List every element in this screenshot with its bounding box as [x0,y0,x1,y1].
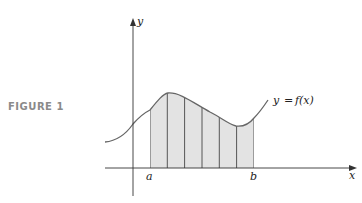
y-axis-arrow-icon [130,18,136,26]
bound-a-label: a [146,170,153,183]
curve-label-fx: f(x) [294,94,314,107]
x-axis-label: x [349,169,356,182]
y-axis [130,18,136,196]
curve-label: y = f(x) [272,94,314,107]
bound-b-label: b [250,170,257,183]
riemann-sum-diagram: y x a b y = f(x) [0,0,362,203]
curve-label-y: y [272,94,280,107]
curve-label-equals: = [284,94,293,107]
y-axis-label: y [136,15,144,28]
